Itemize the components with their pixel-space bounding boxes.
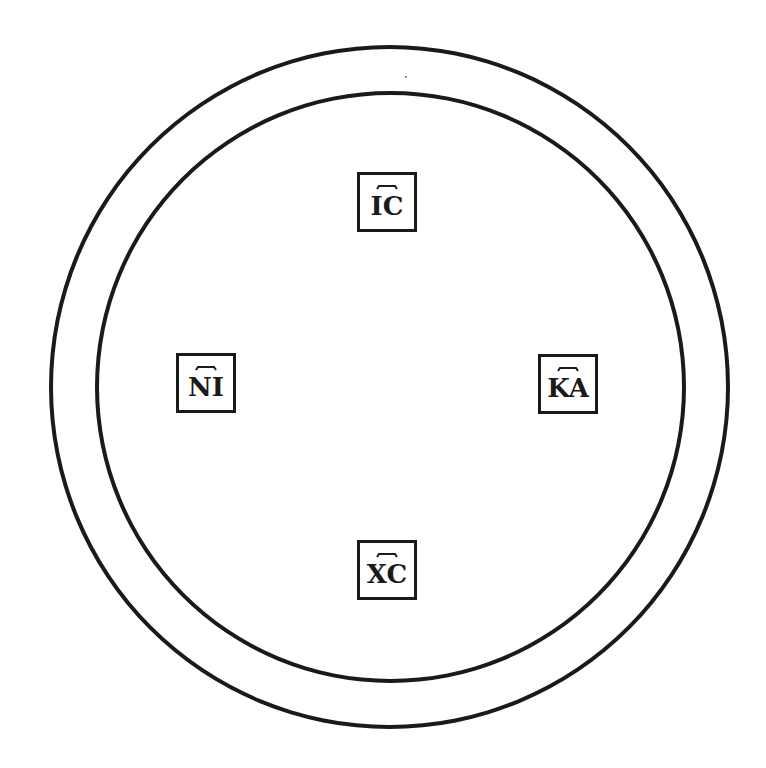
- titlo-mark-icon: [376, 185, 398, 191]
- titlo-mark-icon: [557, 367, 579, 373]
- monogram-label-right: KA: [547, 373, 589, 403]
- monogram-box-left: NI: [176, 353, 236, 413]
- monogram-label-left: NI: [188, 372, 224, 402]
- monogram-box-top: IC: [357, 172, 417, 232]
- monogram-label-bottom: XC: [367, 559, 407, 589]
- monogram-label-top: IC: [371, 191, 404, 221]
- monogram-box-right: KA: [538, 354, 598, 414]
- monogram-box-bottom: XC: [357, 540, 417, 600]
- paper-speck: [405, 76, 407, 78]
- titlo-mark-icon: [195, 366, 217, 372]
- titlo-mark-icon: [376, 553, 398, 559]
